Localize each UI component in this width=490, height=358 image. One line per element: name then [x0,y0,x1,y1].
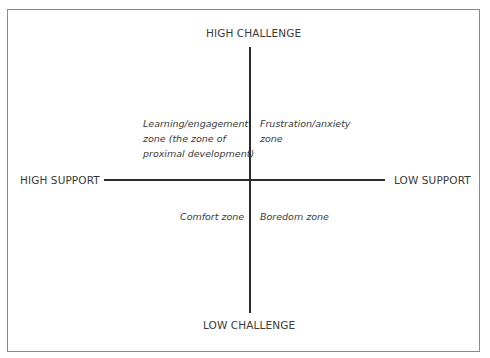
zone-boredom-line-1: Boredom zone [260,209,329,224]
zone-learning-line-2: zone (the zone of [143,131,254,146]
zone-frustration-anxiety: Frustration/anxiety zone [260,116,351,146]
zone-learning-line-3: proximal development) [143,146,254,161]
zone-learning-engagement: Learning/engagement zone (the zone of pr… [143,116,254,161]
zone-frustration-line-2: zone [260,131,351,146]
zone-comfort-line-1: Comfort zone [180,209,244,224]
support-axis-line [104,179,385,181]
axis-label-low-support: LOW SUPPORT [394,174,471,186]
axis-label-high-challenge: HIGH CHALLENGE [206,27,301,39]
zone-frustration-line-1: Frustration/anxiety [260,116,351,131]
axis-label-low-challenge: LOW CHALLENGE [203,319,295,331]
zone-boredom: Boredom zone [260,209,329,224]
axis-label-high-support: HIGH SUPPORT [20,174,100,186]
zone-learning-line-1: Learning/engagement [143,116,254,131]
zone-comfort: Comfort zone [180,209,244,224]
